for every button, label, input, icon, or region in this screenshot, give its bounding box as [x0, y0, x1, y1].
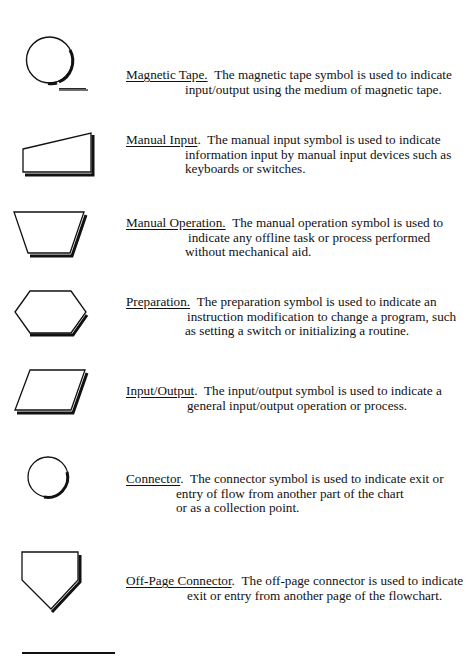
magnetic-tape-description: Magnetic Tape. The magnetic tape symbol …: [126, 68, 452, 97]
term-input-output: Input/Output: [126, 383, 194, 398]
term-off-page-connector: Off-Page Connector: [126, 573, 232, 588]
term-connector: Connector: [126, 471, 180, 486]
off-page-connector-icon: [20, 550, 80, 620]
term-magnetic-tape: Magnetic Tape.: [126, 67, 208, 82]
off-page-connector-description: Off-Page Connector. The off-page connect…: [126, 574, 463, 603]
manual-operation-icon: [12, 210, 92, 260]
term-manual-input: Manual Input: [126, 132, 197, 147]
input-output-description: Input/Output. The input/output symbol is…: [126, 384, 442, 413]
term-manual-operation: Manual Operation.: [126, 215, 226, 230]
connector-icon: [27, 455, 77, 505]
magnetic-tape-icon: [26, 28, 96, 98]
term-preparation: Preparation.: [126, 294, 190, 309]
input-output-icon: [13, 368, 93, 418]
preparation-icon: [13, 289, 93, 339]
manual-input-icon: [20, 131, 100, 181]
preparation-description: Preparation. The preparation symbol is u…: [126, 295, 456, 339]
footnote-divider: [22, 652, 115, 654]
manual-operation-description: Manual Operation. The manual operation s…: [126, 216, 443, 260]
manual-input-description: Manual Input. The manual input symbol is…: [126, 133, 451, 177]
connector-description: Connector. The connector symbol is used …: [126, 472, 444, 516]
